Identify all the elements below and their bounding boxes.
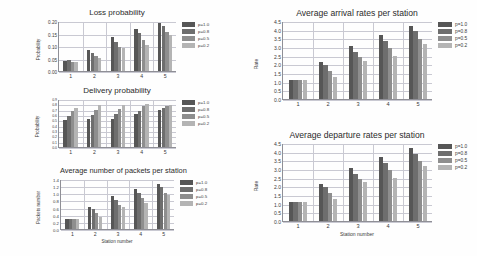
legend-label: p=0.8 [198,107,209,112]
bar [423,44,427,99]
x-axis-tick-label: 1 [69,73,72,79]
gridline-vertical [313,22,314,99]
y-axis-tick-label: 0.5 [52,119,57,123]
x-axis-tick-label: 5 [164,149,167,155]
y-axis-tick-label: 4.0 [274,28,281,34]
figure-canvas: Loss probability0.000.050.100.150.201234… [0,0,477,256]
chart-title: Loss probability [58,8,176,17]
legend-item: p=0.8 [182,29,209,34]
y-axis-tick-label: 0.4 [53,213,59,218]
y-axis-tick-label: 3.0 [274,45,281,51]
gridline-horizontal [283,22,432,23]
x-axis-label: Station number [60,239,174,244]
bar [74,108,77,147]
chart-delivery-probability: Delivery probability0.00.10.20.30.40.50.… [30,86,230,166]
legend: p=1.0p=0.8p=0.5p=0.2 [182,100,209,128]
gridline-vertical [403,144,404,221]
y-axis-tick-label: 0.6 [52,114,57,118]
legend-swatch [438,144,452,149]
gridline-horizontal [61,180,174,181]
gridline-vertical [106,22,107,71]
y-axis-label: Probability [35,103,40,151]
x-axis-tick-label: 3 [117,231,120,237]
legend: p=1.0p=0.8p=0.5p=0.2 [438,144,467,172]
plot-area: 0.00.20.40.60.81.01.21.412345 [60,180,174,230]
y-axis-tick-label: 0.15 [48,32,57,37]
x-axis-tick-label: 2 [326,223,329,229]
x-axis-tick-label: 4 [139,231,142,237]
y-axis-tick-label: 0.2 [52,135,57,139]
legend-item: p=1.0 [182,100,209,105]
bar [169,105,172,147]
bar [98,58,101,71]
legend-label: p=0.8 [198,29,209,34]
legend-swatch [182,22,195,26]
legend: p=1.0p=0.8p=0.5p=0.2 [180,180,207,208]
bar [99,217,102,230]
legend-swatch [182,29,195,33]
legend-label: p=0.5 [198,114,209,119]
bar [122,207,125,229]
gridline-vertical [373,144,374,221]
bar [122,48,125,71]
gridline-horizontal [59,100,176,101]
y-axis-tick-label: 0.20 [48,20,57,25]
legend-item: p=0.5 [438,158,467,163]
y-axis-tick-label: 0.0 [274,219,281,225]
x-axis-tick-label: 3 [356,223,359,229]
y-axis-tick-label: 0.8 [53,199,59,204]
gridline-vertical [106,100,107,147]
legend-item: p=0.8 [180,187,207,192]
legend-label: p=1.0 [198,22,209,27]
x-axis-tick-label: 4 [140,149,143,155]
legend-swatch [180,194,193,198]
y-axis-tick-label: 0.10 [48,45,57,50]
y-axis-tick-label: 0.05 [48,57,57,62]
legend-item: p=0.5 [182,36,209,41]
bar [303,202,307,221]
bar [303,80,307,99]
y-axis-tick-label: 0.6 [53,206,59,211]
gridline-vertical [153,100,154,147]
y-axis-tick-label: 2.5 [274,176,281,182]
y-axis-tick-label: 2.0 [274,62,281,68]
legend-label: p=0.8 [196,187,207,192]
legend-label: p=0.5 [455,36,467,41]
legend-item: p=0.2 [182,121,209,126]
y-axis-tick-label: 0.4 [52,125,57,129]
legend-swatch [438,29,452,34]
x-axis-tick-label: 4 [386,223,389,229]
bar [423,166,427,221]
gridline-horizontal [59,105,176,106]
y-axis-tick-label: 0.7 [52,109,57,113]
y-axis-label: Packets number [36,183,41,233]
gridline-vertical [107,180,108,229]
y-axis-tick-label: 2.0 [274,184,281,190]
y-axis-tick-label: 0.5 [274,210,281,216]
y-axis-tick-label: 1.5 [274,71,281,77]
gridline-vertical [130,22,131,71]
legend-item: p=0.2 [180,201,207,206]
y-axis-tick-label: 0.00 [48,70,57,75]
legend-item: p=0.8 [438,29,467,34]
y-axis-tick-label: 4.5 [274,19,281,25]
gridline-vertical [83,100,84,147]
y-axis-tick-label: 0.2 [53,220,59,225]
plot-area: 0.00.51.01.52.02.53.03.54.04.512345 [282,22,432,100]
legend-swatch [438,165,452,170]
x-axis-tick-label: 3 [117,149,120,155]
y-axis-tick-label: 1.0 [53,192,59,197]
legend-label: p=0.8 [455,151,467,156]
legend-label: p=0.2 [198,121,209,126]
legend-swatch [182,36,195,40]
y-axis-tick-label: 0.3 [52,130,57,134]
y-axis-tick-label: 0.1 [52,141,57,145]
y-axis-label: Rate [253,25,259,103]
bar [363,61,367,99]
legend-swatch [182,121,195,125]
bar [145,45,148,71]
x-axis-tick-label: 3 [356,101,359,107]
legend-item: p=1.0 [438,22,467,27]
chart-title: Average number of packets per station [60,166,174,175]
y-axis-tick-label: 3.0 [274,167,281,173]
